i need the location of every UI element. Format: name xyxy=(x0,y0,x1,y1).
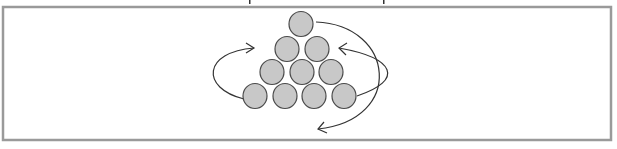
circle-row-4 xyxy=(243,84,267,109)
circle-row-4 xyxy=(273,84,297,109)
cutoff-caption-fragments xyxy=(249,0,385,4)
circle-row-3 xyxy=(260,60,284,85)
circle-row-4 xyxy=(332,84,356,109)
circle-row-4 xyxy=(302,84,326,109)
text-descender-fragment xyxy=(383,0,385,4)
diagram-canvas xyxy=(0,0,617,149)
circle-row-2 xyxy=(305,37,329,62)
circle-row-3 xyxy=(319,60,343,85)
text-descender-fragment xyxy=(249,0,251,4)
circle-row-3 xyxy=(290,60,314,85)
circle-row-2 xyxy=(275,37,299,62)
circle-row-1 xyxy=(289,12,313,37)
